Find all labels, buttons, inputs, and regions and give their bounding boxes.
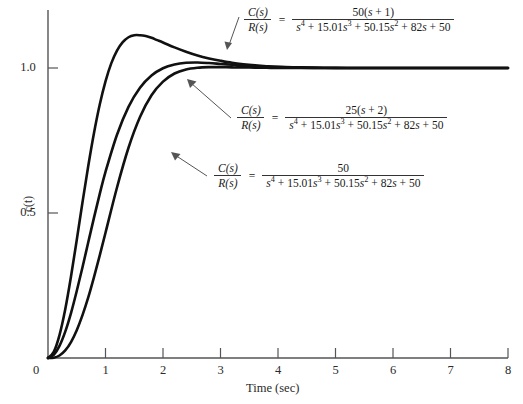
eq0-rhs-num: 50(s + 1) xyxy=(349,6,399,19)
eq2-rhs-num: 50 xyxy=(334,162,354,175)
annotation-equation-2: C(s) R(s) = 50 s4 + 15.01s3 + 50.15s2 + … xyxy=(214,162,424,190)
eq1-lhs-den: R(s) xyxy=(237,117,264,132)
annotation-equation-1: C(s) R(s) = 25(s + 2) s4 + 15.01s3 + 50.… xyxy=(237,104,447,132)
eq2-rhs: 50 s4 + 15.01s3 + 50.15s2 + 82s + 50 xyxy=(262,162,424,190)
curve-series-0 xyxy=(48,35,508,358)
eq0-equals: = xyxy=(272,14,293,26)
x-tick-label-1: 1 xyxy=(96,363,116,378)
eq1-rhs-den: s4 + 15.01s3 + 50.15s2 + 82s + 50 xyxy=(285,117,447,132)
x-tick-label-4: 4 xyxy=(268,363,288,378)
transfer-function-ratio-0: C(s) R(s) xyxy=(244,6,272,34)
x-tick-label-7: 7 xyxy=(441,363,461,378)
x-tick-label-3: 3 xyxy=(211,363,231,378)
eq0-lhs-den: R(s) xyxy=(244,19,271,34)
x-tick-marks xyxy=(106,348,509,358)
x-tick-label-5: 5 xyxy=(326,363,346,378)
transfer-function-ratio-1: C(s) R(s) xyxy=(237,104,265,132)
eq2-rhs-den: s4 + 15.01s3 + 50.15s2 + 82s + 50 xyxy=(262,175,424,190)
eq1-equals: = xyxy=(265,112,286,124)
transfer-function-ratio-2: C(s) R(s) xyxy=(214,162,242,190)
chart-figure: 1.0 0.5 0 c(t) 1 2 3 4 5 6 7 8 Time (sec… xyxy=(0,0,523,404)
y-axis-title: c(t) xyxy=(22,196,34,212)
eq0-rhs: 50(s + 1) s4 + 15.01s3 + 50.15s2 + 82s +… xyxy=(292,6,454,34)
eq0-lhs-num: C(s) xyxy=(244,6,272,19)
x-axis-title: Time (sec) xyxy=(246,381,299,396)
y-tick-marks xyxy=(48,68,58,213)
chart-canvas xyxy=(0,0,523,404)
annotation-leader-2 xyxy=(171,152,207,176)
y-tick-label-1: 1.0 xyxy=(14,60,42,75)
eq1-lhs-num: C(s) xyxy=(237,104,265,117)
annotation-leader-1 xyxy=(187,79,231,118)
eq2-equals: = xyxy=(242,170,263,182)
eq0-rhs-den: s4 + 15.01s3 + 50.15s2 + 82s + 50 xyxy=(292,19,454,34)
annotation-leader-0 xyxy=(225,17,240,50)
x-tick-label-2: 2 xyxy=(153,363,173,378)
eq1-rhs-num: 25(s + 2) xyxy=(342,104,392,117)
x-tick-label-6: 6 xyxy=(383,363,403,378)
eq2-lhs-num: C(s) xyxy=(214,162,242,175)
x-tick-label-8: 8 xyxy=(498,363,518,378)
annotation-equation-0: C(s) R(s) = 50(s + 1) s4 + 15.01s3 + 50.… xyxy=(244,6,454,34)
y-tick-label-0: 0 xyxy=(30,363,42,378)
eq2-lhs-den: R(s) xyxy=(214,175,241,190)
eq1-rhs: 25(s + 2) s4 + 15.01s3 + 50.15s2 + 82s +… xyxy=(285,104,447,132)
